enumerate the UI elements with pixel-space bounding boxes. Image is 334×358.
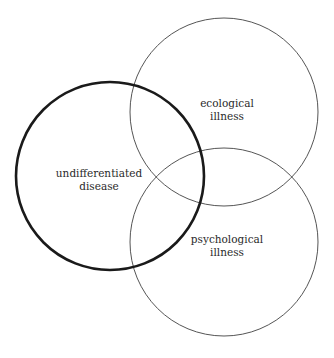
venn-diagram: ecological illness undifferentiated dise…: [0, 0, 334, 358]
undifferentiated-label-line1: undifferentiated: [56, 167, 143, 179]
ecological-label-line1: ecological: [200, 97, 254, 109]
psychological-label-line2: illness: [210, 246, 244, 258]
undifferentiated-label-line2: disease: [79, 180, 119, 192]
ecological-label-line2: illness: [210, 110, 244, 122]
psychological-label-line1: psychological: [191, 233, 264, 245]
